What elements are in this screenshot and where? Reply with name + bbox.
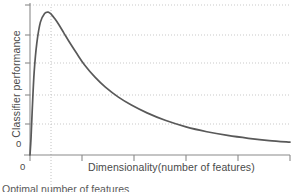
horizontal-gridlines — [30, 5, 290, 124]
x-axis-origin-tick-label: 0 — [20, 161, 25, 172]
classifier-performance-chart: Dimensionality(number of features) Class… — [0, 0, 293, 192]
x-axis-title: Dimensionality(number of features) — [88, 161, 255, 173]
y-axis-ticks — [25, 5, 30, 124]
chart-screenshot: Dimensionality(number of features) Class… — [0, 0, 293, 192]
performance-curve — [30, 12, 290, 155]
y-axis-origin-tick-label: 0 — [16, 138, 21, 149]
y-axis-title: Classifier performance — [10, 21, 22, 147]
optimal-number-of-features-annotation: Optimal number of features — [2, 183, 129, 192]
